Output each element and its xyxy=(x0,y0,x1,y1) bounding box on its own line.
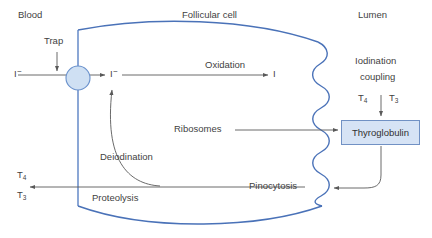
cell-membrane-top-arc xyxy=(78,21,318,42)
iodide-cell-label: I− xyxy=(110,69,117,80)
t3-output-label: T3 xyxy=(17,190,26,201)
ribosomes-label: Ribosomes xyxy=(174,124,222,135)
iodide-trap-circle xyxy=(66,66,90,90)
t4-output-symbol: T xyxy=(17,169,23,180)
oxidation-label: Oxidation xyxy=(205,60,245,71)
t4-lumen-label: T4 xyxy=(358,93,367,104)
thyroglobulin-label: Thyroglobulin xyxy=(352,127,409,138)
colloid-endocytosis-arrow xyxy=(334,146,381,188)
iodination-label: Iodination xyxy=(355,56,396,67)
iodine-label: I xyxy=(273,69,276,80)
region-label-follicular-cell: Follicular cell xyxy=(182,10,237,21)
apical-wavy-membrane xyxy=(313,42,330,206)
cell-membrane-bottom-arc xyxy=(78,206,322,224)
t3-output-symbol: T xyxy=(17,189,23,200)
deiodination-recycle-arrow xyxy=(110,90,160,186)
coupling-label: coupling xyxy=(360,72,395,83)
t3-lumen-subscript: 3 xyxy=(395,97,399,104)
t4-lumen-subscript: 4 xyxy=(364,97,368,104)
trap-label: Trap xyxy=(44,36,63,47)
deiodination-label: Deiodination xyxy=(100,152,153,163)
t4-output-label: T4 xyxy=(17,170,26,181)
t3-lumen-label: T3 xyxy=(389,93,398,104)
t3-lumen-symbol: T xyxy=(389,92,395,103)
iodide-cell-charge: − xyxy=(113,67,118,76)
pinocytosis-label: Pinocytosis xyxy=(249,181,297,192)
iodide-blood-charge: − xyxy=(17,67,22,76)
t4-lumen-symbol: T xyxy=(358,92,364,103)
t3-output-subscript: 3 xyxy=(23,194,27,201)
t4-output-subscript: 4 xyxy=(23,174,27,181)
region-label-lumen: Lumen xyxy=(358,10,387,21)
iodide-blood-label: I− xyxy=(14,69,21,80)
diagram-canvas xyxy=(0,0,432,238)
proteolysis-label: Proteolysis xyxy=(92,193,138,204)
thyroid-hormone-synthesis-diagram: Blood Follicular cell Lumen Trap I− I− O… xyxy=(0,0,432,238)
region-label-blood: Blood xyxy=(18,10,42,21)
thyroglobulin-box: Thyroglobulin xyxy=(341,120,420,145)
